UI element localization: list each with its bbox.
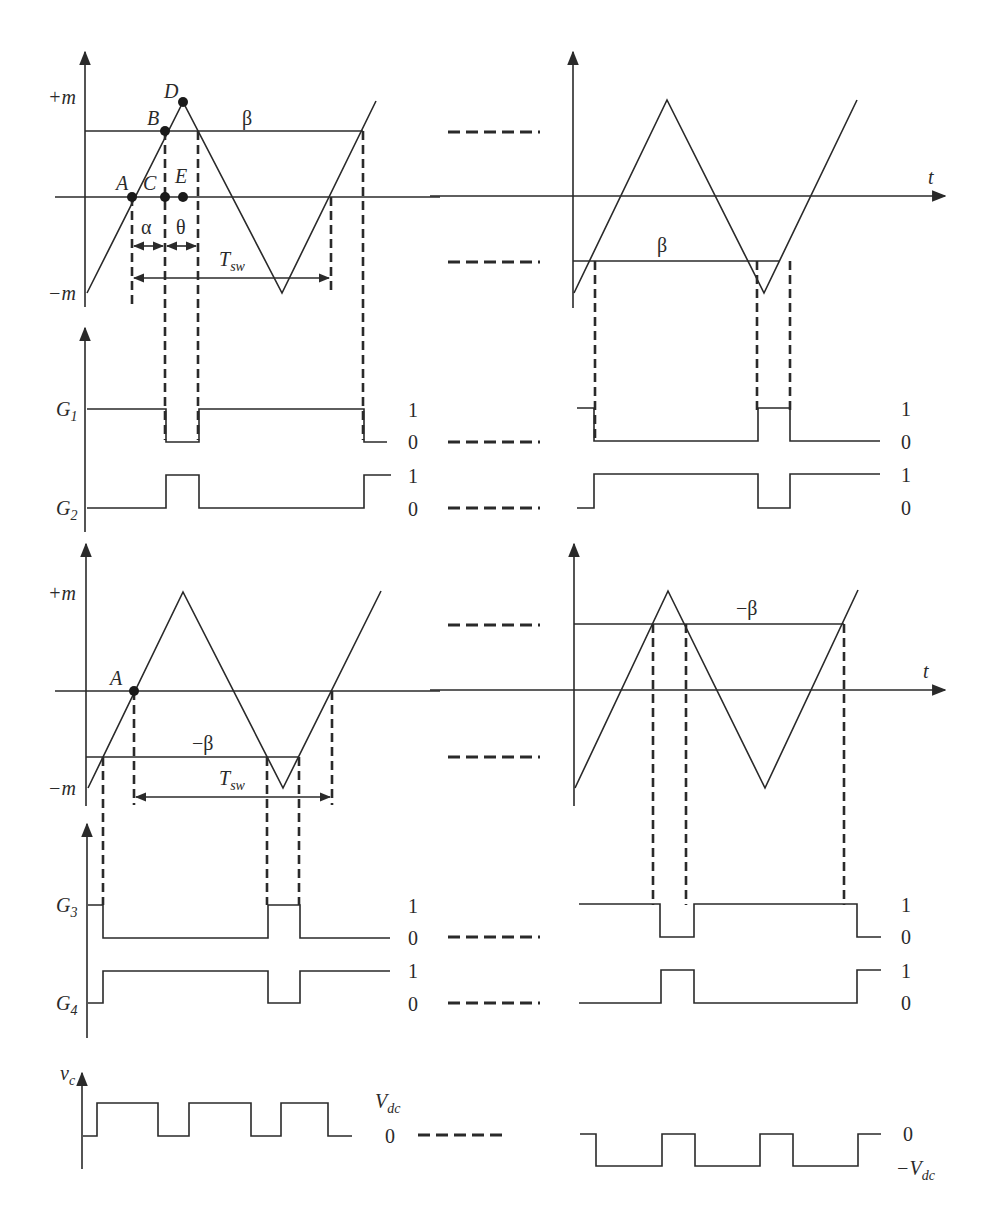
panel-gates-g3-g4-left: G3 G4 1 0 1 0 [56,824,418,1038]
vc-axis-label: vc [60,1062,76,1088]
g3-label: G3 [56,894,77,920]
level-1-label: 1 [901,398,911,420]
level-0-label: 0 [408,927,418,949]
panel-carrier-top-right: t β [430,52,945,440]
plus-m-label: +m [48,86,76,108]
point-b-label: B [147,107,159,129]
pwm-timing-diagram: +m −m D B A C E β α θ Tsw t β [0,0,990,1214]
point-c-label: C [143,172,157,194]
g1-waveform [87,409,387,442]
g4-label: G4 [56,992,77,1018]
minus-m-label: −m [48,282,76,304]
point-a-label: A [114,172,129,194]
tsw-label: Tsw [219,248,246,274]
level-0-label: 0 [408,431,418,453]
point-b-dot [160,126,170,136]
level-1-label: 1 [901,960,911,982]
theta-label: θ [176,216,186,238]
tsw-label: Tsw [219,767,246,793]
g4-waveform [88,971,390,1003]
point-d-dot [178,97,188,107]
level-0-label: 0 [901,431,911,453]
panel-output-vc-right: 0 −Vdc [580,1123,936,1183]
level-1-label: 1 [408,399,418,421]
column-separators [418,132,540,1135]
g4-waveform [579,970,881,1003]
point-c-dot [160,192,170,202]
level-1-label: 1 [901,464,911,486]
g3-waveform [88,905,390,938]
triangle-carrier [575,590,858,788]
point-d-label: D [163,80,179,102]
vdc-label: Vdc [375,1090,401,1116]
point-a-dot [127,192,137,202]
level-1-label: 1 [408,895,418,917]
beta-label: β [242,107,252,130]
g3-waveform [579,904,881,937]
point-e-dot [178,192,188,202]
panel-carrier-bottom-right: t −β [430,544,945,905]
level-0-label: 0 [408,993,418,1015]
vc-waveform [580,1134,881,1166]
g2-waveform [87,475,391,508]
level-0-label: 0 [901,992,911,1014]
t-axis-label: t [928,166,934,188]
level-1-label: 1 [901,894,911,916]
minus-m-label: −m [48,777,76,799]
neg-beta-label: −β [736,597,757,620]
neg-vdc-label: −Vdc [896,1157,936,1183]
level-0-label: 0 [901,926,911,948]
level-0-label: 0 [901,497,911,519]
level-0-label: 0 [385,1125,395,1147]
panel-output-vc-left: vc Vdc 0 [60,1062,401,1169]
panel-carrier-top-left: +m −m D B A C E β α θ Tsw [48,52,440,440]
panel-gates-g3-g4-right: 1 0 1 0 [579,894,911,1014]
g2-waveform [577,474,880,508]
g2-label: G2 [56,497,77,523]
alpha-label: α [141,216,152,238]
g1-waveform [577,408,880,441]
level-1-label: 1 [408,960,418,982]
beta-label: β [657,234,667,257]
point-e-label: E [174,165,187,187]
t-axis-label: t [923,660,929,682]
panel-carrier-bottom-left: +m −m A −β Tsw [48,544,440,905]
point-a-dot [129,686,139,696]
level-0-label: 0 [903,1123,913,1145]
point-a-label: A [108,667,123,689]
g1-label: G1 [56,398,77,424]
level-0-label: 0 [408,498,418,520]
vc-waveform [83,1103,352,1136]
plus-m-label: +m [48,582,76,604]
neg-beta-label: −β [192,732,213,755]
panel-gates-g1-g2-right: 1 0 1 0 [577,398,911,519]
level-1-label: 1 [408,465,418,487]
